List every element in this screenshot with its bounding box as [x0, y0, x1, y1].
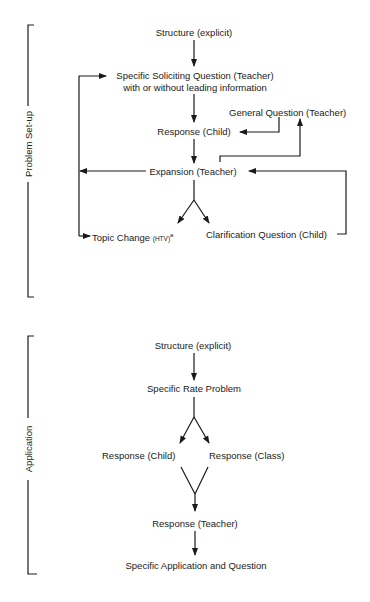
node-structure-explicit: Structure (explicit) [156, 27, 233, 38]
problem-setup-bracket-bottom [28, 182, 34, 297]
node-response-teacher: Response (Teacher) [152, 518, 238, 529]
node-response-child-app: Response (Child) [102, 450, 175, 461]
node-application-structure: Structure (explicit) [155, 340, 232, 351]
node-specific-soliciting-question: Specific Soliciting Question (Teacher) [116, 70, 273, 81]
footnote-marker: a [170, 232, 173, 238]
node-expansion-teacher: Expansion (Teacher) [149, 166, 236, 177]
node-topic-change: Topic Change (HTV)a [92, 230, 173, 244]
node-response-child: Response (Child) [157, 126, 230, 137]
section-label-problem-setup: Problem Set-up [23, 109, 34, 179]
problem-setup-bracket-top [28, 25, 34, 106]
application-bracket-top [28, 336, 34, 418]
node-soliciting-subtitle: with or without leading information [123, 82, 267, 93]
node-specific-application-question: Specific Application and Question [125, 560, 266, 571]
node-specific-rate-problem: Specific Rate Problem [147, 383, 241, 394]
node-clarification-question: Clarification Question (Child) [206, 229, 327, 240]
node-response-class: Response (Class) [209, 450, 285, 461]
topic-change-label: Topic Change [92, 232, 150, 243]
section-label-application: Application [23, 424, 34, 474]
application-bracket-bottom [28, 480, 37, 574]
node-general-question: General Question (Teacher) [229, 107, 346, 118]
topic-change-abbrev: (HTV) [153, 235, 170, 242]
